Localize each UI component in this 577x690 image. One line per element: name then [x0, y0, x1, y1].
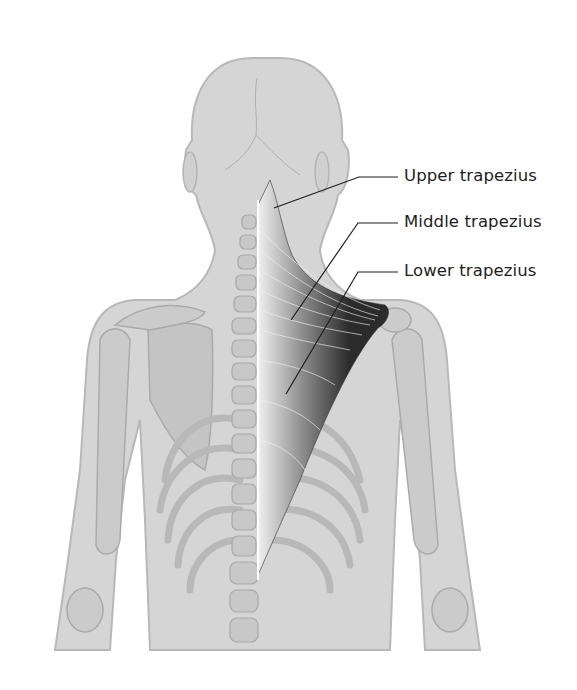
label-lower-trapezius: Lower trapezius: [404, 261, 536, 280]
left-ear: [183, 152, 197, 192]
trapezius-diagram: Upper trapezius Middle trapezius Lower t…: [0, 0, 577, 690]
left-humerus: [96, 329, 130, 554]
right-elbow: [432, 588, 468, 632]
label-upper-trapezius: Upper trapezius: [404, 166, 537, 185]
right-ear: [315, 152, 329, 192]
label-middle-trapezius: Middle trapezius: [404, 212, 542, 231]
anatomy-illustration: [0, 0, 577, 690]
left-elbow: [67, 588, 103, 632]
